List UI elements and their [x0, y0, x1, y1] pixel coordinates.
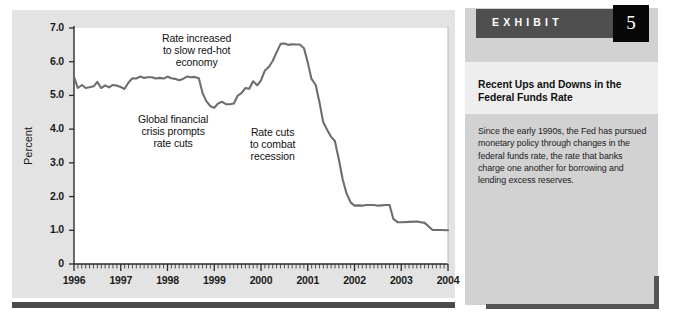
exhibit-title: Recent Ups and Downs in the Federal Fund… — [478, 78, 650, 104]
y-axis-tick-label: 2.0 — [30, 190, 64, 202]
annotation-line: Rate increased — [162, 32, 231, 44]
annotation-line: to combat — [250, 138, 295, 150]
chart-svg — [12, 10, 455, 298]
annotation-global-crisis: Global financialcrisis promptsrate cuts — [138, 113, 208, 150]
annotation-line: to slow red-hot — [162, 44, 231, 56]
y-axis-tick-label: 4.0 — [30, 122, 64, 134]
annotation-line: economy — [162, 56, 231, 68]
y-axis-tick-label: 3.0 — [30, 156, 64, 168]
x-axis-tick-label: 1997 — [101, 274, 141, 286]
exhibit-label: EXHIBIT — [492, 16, 563, 28]
x-axis-tick-label: 2002 — [335, 274, 375, 286]
annotation-rate-cuts: Rate cutsto combatrecession — [250, 126, 295, 163]
exhibit-figure: Percent Rate increasedto slow red-hoteco… — [0, 0, 675, 333]
y-axis-tick-label: 5.0 — [30, 88, 64, 100]
exhibit-body-text: Since the early 1990s, the Fed has pursu… — [478, 125, 650, 186]
x-axis-tick-label: 1998 — [148, 274, 188, 286]
x-axis-tick-label: 2000 — [241, 274, 281, 286]
x-axis-tick-label: 2001 — [288, 274, 328, 286]
x-axis-tick-label: 1996 — [54, 274, 94, 286]
x-axis-tick-label: 1999 — [194, 274, 234, 286]
annotation-rate-increase: Rate increasedto slow red-hoteconomy — [162, 32, 231, 69]
panel-shadow-bottom — [486, 304, 659, 309]
annotation-line: Rate cuts — [250, 126, 295, 138]
annotation-line: Global financial — [138, 113, 208, 125]
annotation-line: recession — [250, 150, 295, 162]
annotation-line: rate cuts — [138, 137, 208, 149]
y-axis-tick-label: 1.0 — [30, 223, 64, 235]
x-axis-tick-label: 2003 — [381, 274, 421, 286]
x-axis-tick-label: 2004 — [428, 274, 468, 286]
y-axis-tick-label: 6.0 — [30, 55, 64, 67]
exhibit-number: 5 — [613, 12, 649, 34]
chart-bottom-rule — [12, 302, 455, 308]
annotation-line: crisis prompts — [138, 125, 208, 137]
y-axis-tick-label: 0 — [30, 257, 64, 269]
y-axis-tick-label: 7.0 — [30, 21, 64, 33]
chart-panel: Percent Rate increasedto slow red-hoteco… — [12, 10, 455, 298]
